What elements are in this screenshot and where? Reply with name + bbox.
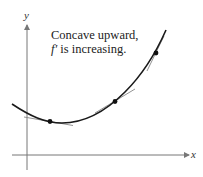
right-point [154, 51, 159, 56]
caption: Concave upward, f′ is increasing. [51, 28, 138, 56]
y-axis-label: y [24, 9, 29, 21]
concavity-diagram [0, 0, 203, 177]
x-axis-label: x [191, 148, 196, 160]
left-point [48, 119, 53, 124]
middle-point [113, 99, 118, 104]
caption-line-1: Concave upward, [51, 28, 138, 42]
caption-line-2: f′ is increasing. [51, 42, 138, 56]
caption-rest: is increasing. [57, 42, 126, 56]
